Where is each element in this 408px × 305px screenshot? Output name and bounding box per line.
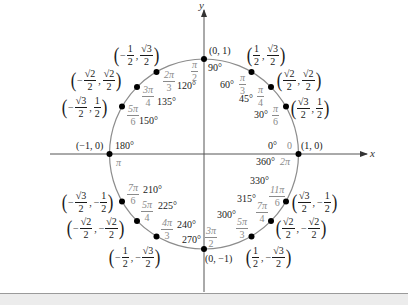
degree-label-45: 45° bbox=[239, 94, 253, 104]
radian-label-300: 5π3 bbox=[236, 217, 248, 240]
degree-label-180: 180° bbox=[115, 141, 134, 151]
radian-label-0: 0 bbox=[287, 141, 292, 151]
coord-label-300: ( 12 , − √32 ) bbox=[245, 246, 292, 269]
radian-label-120: 2π3 bbox=[163, 70, 175, 93]
coord-label-60: ( 12 , √32 ) bbox=[246, 44, 286, 67]
radian-label-30: π6 bbox=[272, 104, 279, 127]
degree-label-60: 60° bbox=[220, 80, 234, 90]
point-45deg bbox=[268, 84, 274, 90]
coord-label-45: ( √22 , √22 ) bbox=[276, 69, 322, 92]
degree-label-360: 360° bbox=[256, 157, 275, 167]
coord-label-210: ( − √32 , − 12 ) bbox=[61, 191, 114, 214]
degree-label-240: 240° bbox=[177, 220, 196, 230]
degree-label-210: 210° bbox=[143, 185, 162, 195]
footer-band bbox=[0, 293, 408, 305]
point-135deg bbox=[134, 84, 140, 90]
coord-label-135: ( − √22 , √22 ) bbox=[70, 69, 122, 92]
radian-label-225: 5π4 bbox=[141, 200, 153, 223]
degree-label-225: 225° bbox=[158, 201, 177, 211]
point-90deg bbox=[201, 56, 207, 62]
point-30deg bbox=[283, 104, 289, 110]
coord-label-90: (0, 1) bbox=[209, 46, 231, 56]
radian-label-270: 3π2 bbox=[205, 226, 217, 249]
radian-label-45: π4 bbox=[257, 85, 264, 108]
point-60deg bbox=[249, 69, 255, 75]
coord-label-330: ( √32 , − 12 ) bbox=[291, 191, 338, 214]
degree-label-315: 315° bbox=[237, 194, 256, 204]
radian-label-150: 5π6 bbox=[127, 104, 139, 127]
degree-label-90: 90° bbox=[208, 63, 222, 73]
degree-label-30: 30° bbox=[254, 110, 268, 120]
coord-label-120: ( − 12 , √32 ) bbox=[113, 44, 160, 67]
radian-label-210: 7π6 bbox=[127, 183, 139, 206]
y-axis-label: y bbox=[199, 0, 204, 11]
degree-label-300: 300° bbox=[217, 210, 236, 220]
radian-label-135: 3π4 bbox=[142, 85, 154, 108]
point-180deg bbox=[107, 151, 113, 157]
coord-label-225: ( − √22 , − √22 ) bbox=[66, 217, 125, 240]
radian-label-330: 11π6 bbox=[269, 185, 285, 208]
coord-label-240: ( − 12 , − √32 ) bbox=[108, 246, 161, 269]
coord-label-270: (0, −1) bbox=[205, 254, 232, 264]
degree-label-135: 135° bbox=[157, 97, 176, 107]
point-300deg bbox=[249, 234, 255, 240]
x-axis-label: x bbox=[370, 148, 375, 159]
point-150deg bbox=[119, 104, 125, 110]
radian-label-315: 7π4 bbox=[256, 201, 268, 224]
radian-label-240: 4π3 bbox=[161, 218, 173, 241]
radian-label-180: π bbox=[116, 158, 121, 168]
degree-label-150: 150° bbox=[139, 116, 158, 126]
point-225deg bbox=[134, 218, 140, 224]
point-210deg bbox=[119, 199, 125, 205]
point-0deg bbox=[296, 151, 302, 157]
degree-label-270: 270° bbox=[182, 235, 201, 245]
coord-label-180: (−1, 0) bbox=[76, 141, 103, 151]
degree-label-330: 330° bbox=[250, 176, 269, 186]
point-315deg bbox=[268, 218, 274, 224]
degree-label-120: 120° bbox=[177, 81, 196, 91]
point-240deg bbox=[154, 234, 160, 240]
coord-label-0: (1, 0) bbox=[301, 141, 323, 151]
point-120deg bbox=[154, 69, 160, 75]
radian-label-2pi: 2π bbox=[280, 157, 290, 167]
coord-label-315: ( √22 , − √22 ) bbox=[275, 217, 327, 240]
coord-label-150: ( − √32 , 12 ) bbox=[61, 96, 108, 119]
coord-label-30: ( √32 , 12 ) bbox=[290, 97, 330, 120]
degree-label-0: 0° bbox=[268, 141, 277, 151]
